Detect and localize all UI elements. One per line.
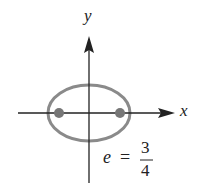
fraction-denominator: 4 <box>141 161 150 181</box>
eccentricity-variable: e <box>103 147 111 168</box>
fraction-numerator: 3 <box>141 138 150 158</box>
focus-left <box>54 108 64 118</box>
focus-right <box>115 108 125 118</box>
x-axis-label: x <box>180 101 188 121</box>
y-axis-label: y <box>84 6 92 26</box>
ellipse-diagram <box>0 0 203 195</box>
equals-sign: = <box>120 147 130 168</box>
